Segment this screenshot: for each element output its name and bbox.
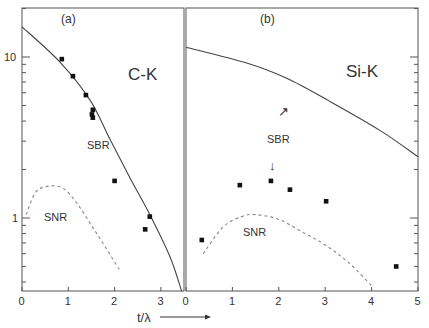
sbr-curve bbox=[186, 47, 418, 157]
arrow-up-icon: ↗ bbox=[278, 104, 289, 119]
snr-curve bbox=[203, 214, 371, 285]
data-point bbox=[324, 199, 329, 204]
x-tick-label: 1 bbox=[65, 295, 71, 307]
data-point bbox=[60, 57, 65, 62]
sbr-label-a: SBR bbox=[87, 139, 110, 151]
x-tick-label: 0 bbox=[183, 295, 189, 307]
snr-curve bbox=[26, 186, 119, 270]
plot-frame bbox=[186, 8, 418, 291]
data-point bbox=[143, 227, 148, 232]
x-tick-label: 2 bbox=[275, 295, 281, 307]
element-b-title: Si-K bbox=[346, 62, 379, 81]
data-point bbox=[199, 238, 204, 243]
data-point bbox=[238, 183, 243, 188]
panel-b: 012345 bbox=[183, 8, 421, 307]
x-tick-label: 4 bbox=[368, 295, 374, 307]
data-point bbox=[84, 93, 89, 98]
x-axis-arrow-icon bbox=[160, 315, 211, 320]
arrow-down-icon: ↓ bbox=[269, 158, 276, 173]
sbr-curve bbox=[22, 27, 182, 292]
snr-label-a: SNR bbox=[44, 211, 67, 223]
data-point bbox=[91, 107, 96, 112]
x-tick-label: 3 bbox=[322, 295, 328, 307]
x-tick-label: 1 bbox=[229, 295, 235, 307]
data-point bbox=[112, 179, 117, 184]
data-point bbox=[288, 187, 293, 192]
panel-a: 0123 bbox=[19, 8, 185, 307]
snr-label-b: SNR bbox=[243, 226, 266, 238]
data-point bbox=[71, 74, 76, 79]
y-tick-label-1: 1 bbox=[12, 212, 18, 224]
data-point bbox=[147, 214, 152, 219]
sbr-label-b: SBR bbox=[267, 133, 290, 145]
data-point bbox=[269, 179, 274, 184]
x-axis-label: t/λ bbox=[137, 310, 151, 325]
x-tick-label: 2 bbox=[111, 295, 117, 307]
x-tick-label: 3 bbox=[157, 295, 163, 307]
panel-a-label: (a) bbox=[61, 12, 76, 26]
data-point bbox=[394, 264, 399, 269]
panel-b-label: (b) bbox=[260, 12, 275, 26]
y-tick-label-10: 10 bbox=[4, 51, 16, 63]
x-tick-label: 0 bbox=[19, 295, 25, 307]
x-tick-label: 5 bbox=[415, 295, 421, 307]
chart-figure: 0123 012345 (a) (b) C-K Si-K SBR SNR SBR… bbox=[0, 0, 429, 328]
data-point bbox=[91, 115, 96, 120]
element-a-title: C-K bbox=[128, 65, 158, 84]
